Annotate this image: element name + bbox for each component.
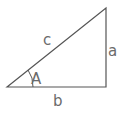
label-angle-A: A: [31, 70, 42, 88]
triangle-diagram: c a b A: [0, 0, 121, 115]
label-opposite-a: a: [108, 42, 117, 60]
label-adjacent-b: b: [53, 92, 63, 110]
right-triangle: [7, 8, 106, 87]
label-hypotenuse-c: c: [43, 31, 51, 49]
